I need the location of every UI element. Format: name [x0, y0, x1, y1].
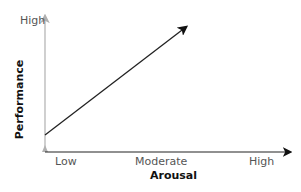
- performance-line: [45, 27, 186, 135]
- x-tick-high: High: [249, 155, 274, 168]
- y-axis-label: Performance: [13, 60, 26, 139]
- x-tick-low: Low: [55, 155, 77, 168]
- x-tick-moderate: Moderate: [135, 155, 187, 168]
- x-axis-label: Arousal: [150, 169, 197, 182]
- y-tick-high: High: [20, 14, 45, 27]
- origin-marker-icon: [42, 145, 48, 152]
